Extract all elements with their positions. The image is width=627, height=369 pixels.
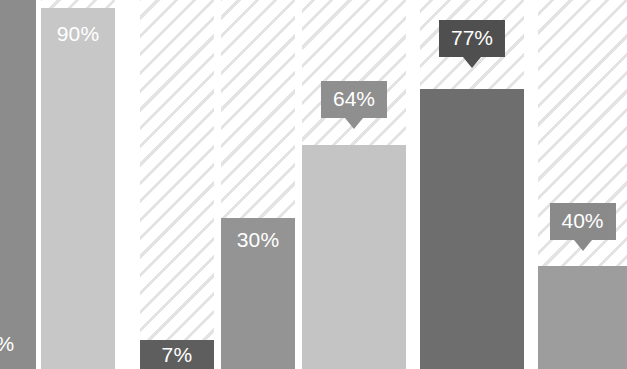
bar-0[interactable] (0, 0, 36, 369)
callout-pointer-icon-6 (574, 240, 592, 251)
bar-callout-5: 77% (439, 20, 505, 57)
bar-callout-6: 40% (549, 203, 615, 240)
bar-chart: 0% 90% 7% 30% 64% 77% (0, 0, 627, 369)
callout-pointer-icon-5 (463, 57, 481, 68)
bar-1[interactable] (41, 8, 115, 369)
column-hatch-background-2 (140, 0, 214, 369)
chart-column-0 (0, 0, 36, 369)
bar-label-5: 77% (451, 26, 493, 49)
chart-column-4: 64% (302, 0, 406, 369)
chart-column-5: 77% (420, 0, 524, 369)
bar-6[interactable] (538, 266, 627, 369)
bar-label-3: 30% (221, 228, 295, 252)
bar-callout-4: 64% (321, 81, 387, 118)
callout-pointer-icon-4 (345, 118, 363, 129)
chart-column-1: 90% (41, 0, 115, 369)
bar-5[interactable] (420, 89, 524, 369)
bar-4[interactable] (302, 145, 406, 369)
chart-column-3: 30% (221, 0, 295, 369)
bar-label-1: 90% (41, 22, 115, 46)
chart-column-2: 7% (140, 0, 214, 369)
chart-column-6: 40% (538, 0, 627, 369)
bar-label-0: 0% (0, 327, 36, 362)
bar-label-6: 40% (561, 209, 603, 232)
bar-label-4: 64% (333, 87, 375, 110)
bar-label-2: 7% (140, 343, 214, 367)
